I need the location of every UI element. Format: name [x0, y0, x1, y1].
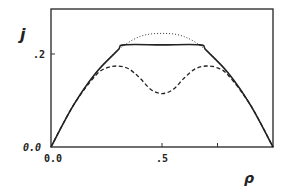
y-tick-label-0: 0.0 [23, 142, 41, 153]
x-tick-label-0.5: .5 [156, 153, 168, 164]
chart: j ρ .2 0.0 0.0 .5 [0, 0, 282, 190]
curve-solid [51, 45, 273, 148]
x-tick-label-0: 0.0 [44, 153, 62, 164]
curve-dashed [51, 66, 273, 147]
x-axis-label: ρ [244, 170, 254, 186]
y-axis-label: j [17, 25, 26, 44]
plot-frame [51, 9, 273, 147]
y-tick-label-0.2: .2 [33, 49, 45, 60]
